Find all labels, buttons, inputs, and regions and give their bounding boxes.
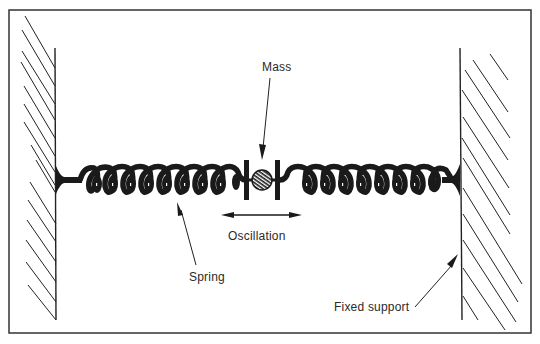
fixed-support-label: Fixed support [334, 300, 409, 314]
left-fixed-support [21, 16, 56, 320]
spring-pointer-arrow [177, 202, 196, 265]
mass-ball [252, 170, 272, 190]
mass-pointer-arrow [259, 78, 270, 160]
oscillation-double-arrow [221, 212, 302, 218]
left-mass-plate [244, 160, 249, 200]
oscillation-label: Oscillation [228, 229, 286, 243]
fixed-support-pointer-arrow [415, 254, 458, 307]
mass-label: Mass [262, 60, 291, 74]
mass-spring-diagram [0, 0, 540, 344]
right-fixed-support [460, 48, 522, 330]
spring-label: Spring [189, 270, 225, 284]
mass-assembly [244, 160, 280, 200]
